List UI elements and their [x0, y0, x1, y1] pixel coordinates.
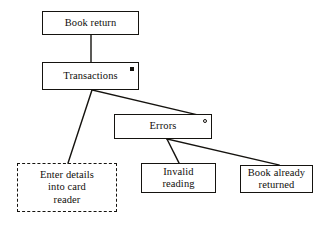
- selection-marker: [203, 119, 207, 123]
- connector-errors-to-invalid-reading: [167, 139, 179, 163]
- node-book-already-returned-label: Book already returned: [245, 167, 308, 192]
- node-transactions-label: Transactions: [60, 70, 120, 83]
- connector-transactions-to-errors: [92, 90, 198, 115]
- node-errors[interactable]: Errors: [114, 114, 212, 139]
- connector-errors-to-book-already-returned: [167, 139, 279, 165]
- node-enter-details-into-card-reader[interactable]: Enter details into card reader: [17, 163, 117, 212]
- node-book-return[interactable]: Book return: [42, 11, 139, 35]
- node-book-already-returned[interactable]: Book already returned: [240, 165, 313, 193]
- node-book-return-label: Book return: [62, 17, 120, 30]
- node-invalid-reading-label: Invalid reading: [159, 166, 197, 191]
- connector-transactions-to-enter-details: [68, 90, 92, 163]
- node-errors-label: Errors: [147, 120, 180, 133]
- node-transactions[interactable]: Transactions: [42, 62, 139, 90]
- diagram-canvas: Book return Transactions Errors Enter de…: [0, 0, 329, 226]
- iteration-marker: [130, 67, 134, 71]
- node-invalid-reading[interactable]: Invalid reading: [141, 163, 216, 193]
- node-enter-details-label: Enter details into card reader: [37, 169, 97, 207]
